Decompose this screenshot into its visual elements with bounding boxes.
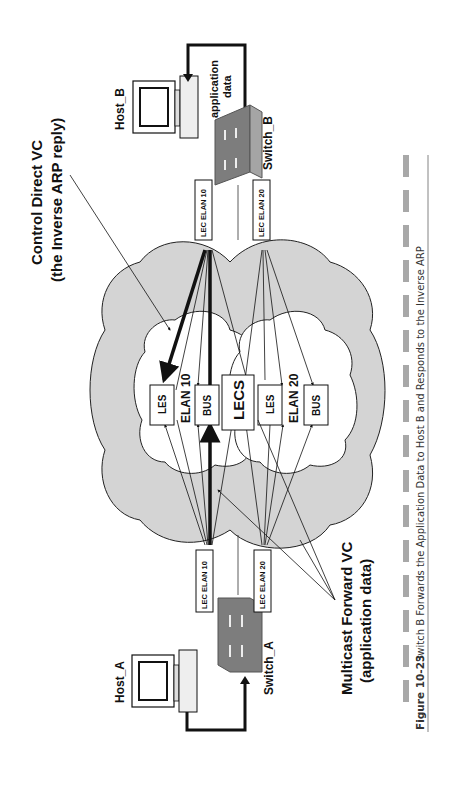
diagram-canvas: Host_B Host_A application data Switch_B … [0, 0, 454, 786]
svg-text:BUS: BUS [311, 395, 322, 416]
host-b-label: Host_B [113, 88, 127, 130]
bus-elan10-box: BUS [195, 385, 219, 425]
svg-text:LECS: LECS [230, 380, 247, 420]
svg-text:LEC ELAN 20: LEC ELAN 20 [258, 561, 267, 609]
svg-text:LES: LES [265, 394, 276, 414]
figure-caption: Switch B Forwards the Application Data t… [415, 246, 426, 662]
control-direct-label-2: (the Inverse ARP reply) [48, 118, 65, 282]
lecs-box: LECS [222, 375, 254, 430]
host-a-computer [132, 650, 197, 712]
svg-text:LEC ELAN 10: LEC ELAN 10 [200, 561, 209, 609]
bus-elan20-box: BUS [304, 385, 328, 425]
les-elan10-box: LES [150, 385, 174, 425]
lec-b-elan20-box: LEC ELAN 20 [253, 180, 270, 240]
host-b-computer [133, 76, 198, 138]
switch-a-label: Switch_A [262, 641, 276, 695]
lec-a-elan10-box: LEC ELAN 10 [196, 550, 213, 612]
svg-text:BUS: BUS [202, 395, 213, 416]
les-elan20-box: LES [258, 385, 282, 425]
multicast-label-2: (application data) [357, 559, 374, 683]
switch-b-device [215, 105, 262, 185]
figure-number: Figure 10-23 [414, 655, 426, 730]
multicast-label-1: Multicast Forward VC [338, 541, 355, 695]
lec-a-elan20-box: LEC ELAN 20 [254, 550, 271, 612]
svg-text:LEC ELAN 20: LEC ELAN 20 [257, 189, 266, 237]
elan10-label: ELAN 10 [179, 373, 193, 423]
switch-b-label: Switch_B [261, 116, 275, 170]
svg-text:LES: LES [157, 394, 168, 414]
app-data-label-1: application [208, 60, 220, 118]
svg-text:LEC ELAN 10: LEC ELAN 10 [199, 189, 208, 237]
host-a-label: Host_A [113, 661, 127, 703]
control-direct-label-1: Control Direct VC [28, 140, 45, 265]
app-data-label-2: data [221, 75, 233, 99]
lec-b-elan10-box: LEC ELAN 10 [195, 180, 212, 240]
elan20-label: ELAN 20 [287, 373, 301, 423]
